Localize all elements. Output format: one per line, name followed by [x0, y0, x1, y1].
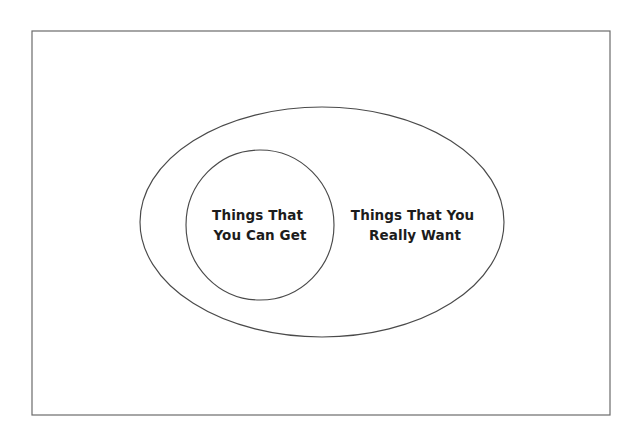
outer-frame	[32, 31, 610, 415]
outer-set-label: Things That You Really Want	[351, 207, 479, 243]
outer-set-label-line2: Really Want	[369, 227, 462, 243]
inner-set-label-line2: You Can Get	[212, 227, 307, 243]
inner-set-label: Things That You Can Get	[212, 207, 308, 243]
inner-set-ellipse	[186, 150, 334, 300]
outer-set-label-line1: Things That You	[351, 207, 474, 223]
venn-diagram-canvas: Things That You Can Get Things That You …	[0, 0, 643, 438]
inner-set-label-line1: Things That	[212, 207, 303, 223]
